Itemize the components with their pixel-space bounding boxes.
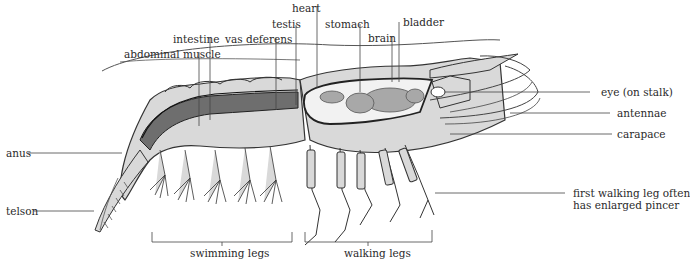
heart-organ [320, 91, 344, 103]
label-heart: heart [292, 2, 320, 14]
swimming-legs-art [150, 146, 282, 204]
label-anus: anus [6, 147, 31, 159]
walking-legs-bracket [305, 230, 432, 246]
label-intestine: intestine [173, 33, 220, 45]
label-testis: testis [272, 18, 301, 30]
label-first-walking-leg: first walking leg often has enlarged pin… [573, 187, 690, 211]
label-telson: telson [6, 205, 38, 217]
label-antennae: antennae [617, 107, 666, 119]
walking-legs-art [305, 145, 434, 245]
label-first-walking-leg-line2: has enlarged pincer [573, 199, 690, 211]
label-carapace: carapace [617, 128, 666, 140]
swimming-legs-bracket [152, 232, 292, 246]
label-vas-deferens: vas deferens [225, 33, 292, 45]
label-stomach: stomach [325, 18, 370, 30]
label-bladder: bladder [403, 16, 444, 28]
label-first-walking-leg-line1: first walking leg often [573, 187, 690, 199]
label-walking-legs: walking legs [344, 247, 411, 259]
label-abdominal-muscle: abdominal muscle [124, 48, 221, 60]
label-brain: brain [368, 32, 396, 44]
label-swimming-legs: swimming legs [190, 247, 270, 259]
eye-organ [431, 87, 445, 97]
label-eye: eye (on stalk) [601, 86, 673, 98]
